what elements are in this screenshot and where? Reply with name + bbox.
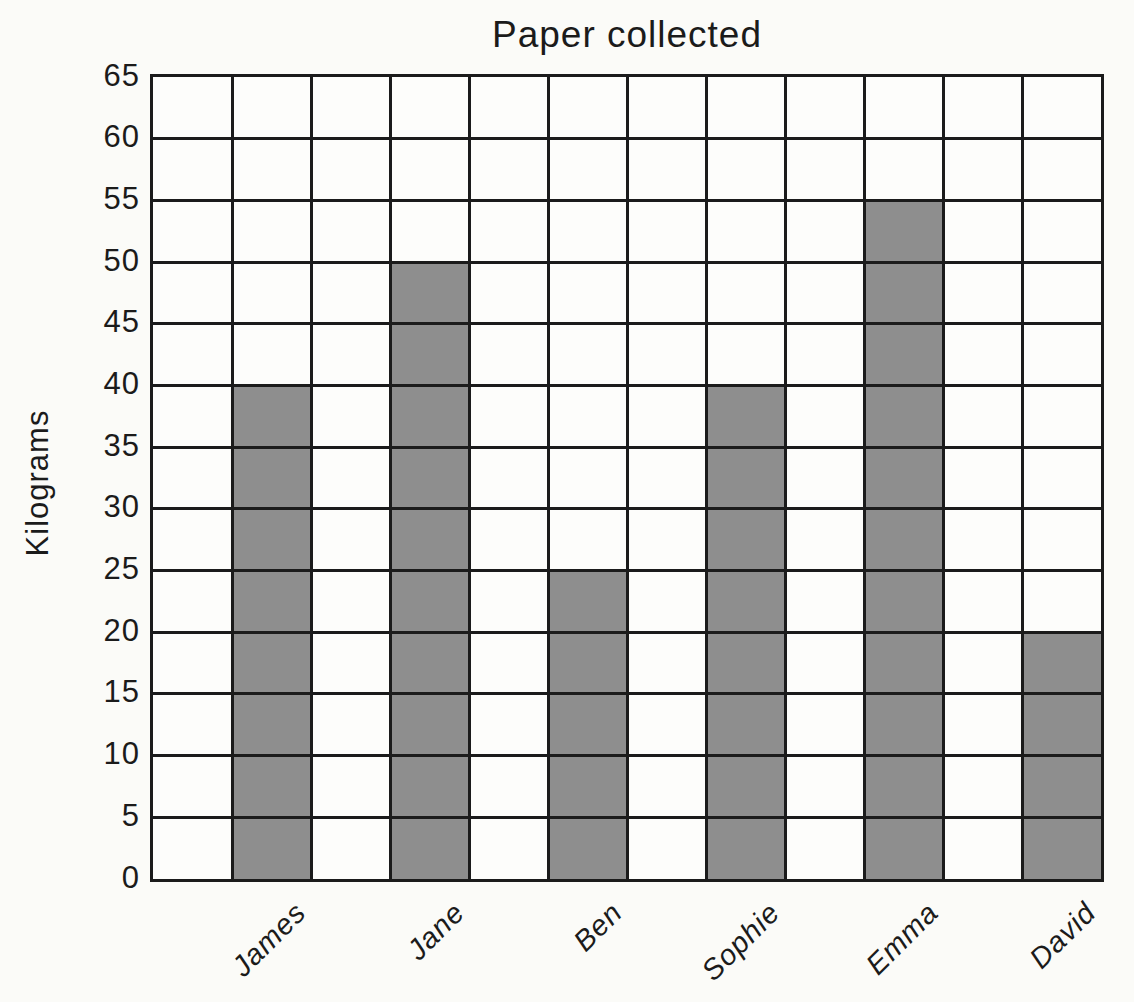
y-tick-label: 15 — [30, 672, 140, 712]
bar-sophie — [706, 385, 785, 879]
y-tick-label: 0 — [30, 858, 140, 898]
y-tick-label: 5 — [30, 796, 140, 836]
chart-title: Paper collected — [150, 14, 1104, 56]
x-tick-label-ben: Ben — [567, 896, 629, 958]
y-tick-label: 20 — [30, 611, 140, 651]
y-tick-label: 50 — [30, 241, 140, 281]
y-tick-label: 25 — [30, 549, 140, 589]
bar-david — [1022, 632, 1101, 879]
bars-layer — [153, 77, 1101, 879]
y-tick-label: 45 — [30, 302, 140, 342]
y-tick-label: 55 — [30, 179, 140, 219]
x-tick-label-james: James — [226, 896, 313, 983]
bar-chart-figure: Paper collected Kilograms 65605550454035… — [0, 0, 1134, 1002]
y-tick-label: 40 — [30, 364, 140, 404]
bar-james — [232, 385, 311, 879]
x-tick-label-sophie: Sophie — [695, 896, 786, 987]
y-tick-label: 10 — [30, 734, 140, 774]
y-tick-label: 60 — [30, 117, 140, 157]
x-tick-label-emma: Emma — [859, 896, 944, 981]
plot-area — [150, 74, 1104, 882]
x-tick-label-jane: Jane — [400, 896, 471, 967]
bar-emma — [864, 200, 943, 879]
y-tick-label: 30 — [30, 487, 140, 527]
bar-ben — [548, 571, 627, 879]
y-tick-label: 35 — [30, 426, 140, 466]
x-tick-label-david: David — [1024, 896, 1103, 975]
bar-jane — [390, 262, 469, 879]
y-tick-label: 65 — [30, 56, 140, 96]
